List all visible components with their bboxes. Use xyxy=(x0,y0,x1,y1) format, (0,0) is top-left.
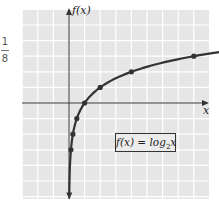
y-axis-label: f(x) xyxy=(72,4,91,17)
data-point xyxy=(70,132,75,137)
data-point xyxy=(191,54,196,59)
data-point xyxy=(82,100,87,105)
log-graph xyxy=(0,0,219,212)
function-label-suffix: x xyxy=(170,136,176,148)
data-point xyxy=(98,85,103,90)
function-label-prefix: f(x) = log xyxy=(116,136,166,148)
data-point xyxy=(68,147,73,152)
data-point xyxy=(129,69,134,74)
function-label-box: f(x) = log2x xyxy=(115,133,176,152)
x-axis-label: x xyxy=(203,104,209,117)
data-point xyxy=(74,116,79,121)
